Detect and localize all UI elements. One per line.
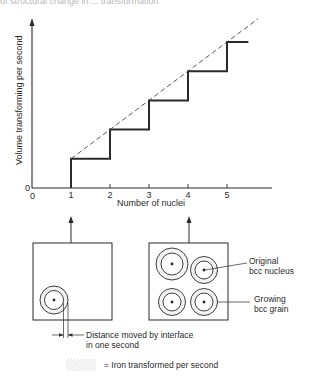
grain-top-right xyxy=(191,257,218,284)
arrow-right-icon xyxy=(59,333,64,336)
arrow-to-left-panel xyxy=(69,216,74,243)
header-fragment: of structural change in ... transformati… xyxy=(0,0,159,6)
growing-label-line1: Growing xyxy=(254,294,286,304)
left-panel xyxy=(33,243,112,338)
x-tick-label: 4 xyxy=(186,190,191,200)
grain-top-left xyxy=(156,248,188,280)
grain-bottom-right xyxy=(191,289,218,316)
nucleus-dot xyxy=(53,299,56,302)
original-label-line2: bcc nucleus xyxy=(249,266,294,276)
x-ticks xyxy=(71,184,227,188)
nucleus-dot xyxy=(203,301,206,304)
x-tick-label: 1 xyxy=(69,190,74,200)
diagram: of structural change in ... transformati… xyxy=(0,0,315,379)
legend-text: = Iron transformed per second xyxy=(104,360,218,370)
original-label-line1: Original xyxy=(249,256,278,266)
nucleus-dot xyxy=(203,269,206,272)
nucleus-dot xyxy=(171,301,174,304)
x-tick-label: 2 xyxy=(108,190,113,200)
dashed-trend-line xyxy=(71,19,258,159)
arrow-up-icon xyxy=(187,216,192,223)
axes xyxy=(30,18,273,188)
y-axis-arrow-icon xyxy=(30,18,35,26)
distance-label-line1: Distance moved by interface xyxy=(86,330,194,340)
legend-stipple-swatch xyxy=(66,359,96,371)
grain-bottom-left xyxy=(159,289,186,316)
x-axis-label: Number of nuclei xyxy=(117,198,185,208)
origin-x-label: 0 xyxy=(30,191,35,201)
arrow-to-right-panel xyxy=(187,216,192,243)
step-line xyxy=(71,42,248,188)
x-tick-label: 5 xyxy=(225,190,230,200)
arrow-left-icon xyxy=(68,333,73,336)
distance-label-line2: in one second xyxy=(86,340,139,350)
right-panel xyxy=(149,243,250,320)
growing-label-line2: bcc grain xyxy=(254,304,289,314)
arrow-up-icon xyxy=(69,216,74,223)
nucleus-dot xyxy=(171,263,174,266)
y-axis-label: Volume transforming per second xyxy=(14,35,24,165)
